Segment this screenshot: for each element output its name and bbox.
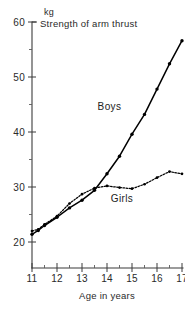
x-tick-label: 11 xyxy=(27,273,38,284)
series-annotation-boys: Boys xyxy=(98,101,122,112)
x-tick-label: 17 xyxy=(176,273,185,284)
data-point-girls xyxy=(143,183,146,186)
data-point-girls xyxy=(181,172,184,175)
data-point-girls xyxy=(118,186,121,189)
data-point-girls xyxy=(156,176,159,179)
x-tick-label: 12 xyxy=(51,273,63,284)
y-tick-label: 30 xyxy=(13,182,25,193)
data-point-boys xyxy=(118,155,121,158)
data-point-boys xyxy=(130,133,133,136)
chart-labels: 203040506011121314151617kgStrength of ar… xyxy=(13,7,185,301)
data-series xyxy=(30,39,183,236)
y-tick-label: 40 xyxy=(13,127,25,138)
y-tick-label: 60 xyxy=(13,17,25,28)
x-tick-label: 13 xyxy=(76,273,88,284)
data-point-boys xyxy=(143,113,146,116)
y-axis-unit-label: kg xyxy=(44,7,54,17)
data-point-boys xyxy=(30,233,33,236)
data-point-girls xyxy=(168,170,171,173)
y-tick-label: 20 xyxy=(13,237,25,248)
x-axis-label: Age in years xyxy=(79,290,135,301)
series-annotation-girls: Girls xyxy=(111,193,134,204)
data-point-girls xyxy=(81,193,84,196)
data-point-girls xyxy=(68,202,71,205)
data-point-boys xyxy=(80,199,83,202)
y-tick-label: 50 xyxy=(13,72,25,83)
x-tick-label: 16 xyxy=(151,273,163,284)
data-point-boys xyxy=(155,87,158,90)
data-point-girls xyxy=(43,223,46,226)
data-point-boys xyxy=(68,206,71,209)
data-point-boys xyxy=(105,172,108,175)
data-point-girls xyxy=(106,185,109,188)
data-point-boys xyxy=(168,62,171,65)
chart-figure: 203040506011121314151617kgStrength of ar… xyxy=(0,0,185,309)
data-point-girls xyxy=(56,215,59,218)
data-point-girls xyxy=(37,228,40,231)
data-point-boys xyxy=(180,39,183,42)
chart-title: Strength of arm thrust xyxy=(40,18,137,29)
data-point-girls xyxy=(31,230,34,233)
data-point-girls xyxy=(131,187,134,190)
chart-canvas: 203040506011121314151617kgStrength of ar… xyxy=(0,0,185,309)
x-tick-label: 15 xyxy=(126,273,138,284)
axes xyxy=(28,22,183,272)
series-line-boys xyxy=(32,41,182,235)
x-tick-label: 14 xyxy=(101,273,113,284)
series-line-girls xyxy=(32,172,182,231)
data-point-girls xyxy=(93,187,96,190)
